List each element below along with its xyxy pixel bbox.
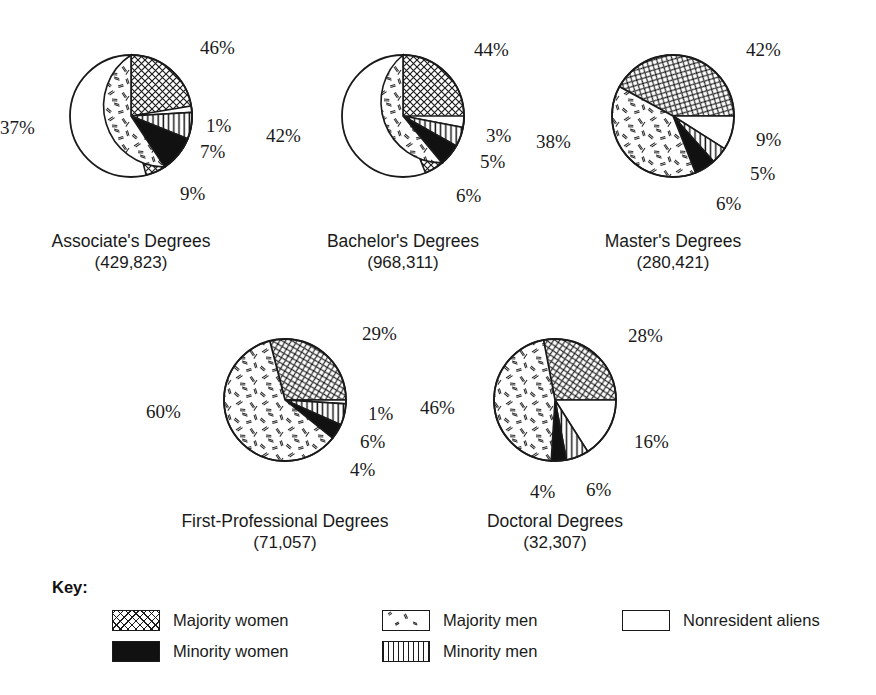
pct-minority-women: 9% bbox=[180, 184, 205, 203]
pct-minority-men: 5% bbox=[750, 164, 775, 183]
legend-item-majority-women: Majority women bbox=[112, 605, 289, 636]
legend-column-3: Nonresident aliens bbox=[622, 605, 820, 636]
pct-nonresident: 1% bbox=[368, 404, 393, 423]
white-swatch-icon bbox=[622, 610, 670, 631]
legend-label: Majority men bbox=[443, 611, 537, 630]
caption-count: (429,823) bbox=[0, 252, 276, 274]
pct-nonresident: 9% bbox=[756, 130, 781, 149]
pct-minority-women: 4% bbox=[350, 460, 375, 479]
legend-label: Minority men bbox=[443, 642, 537, 661]
pct-minority-men: 5% bbox=[480, 152, 505, 171]
legend-item-nonresident-aliens: Nonresident aliens bbox=[622, 605, 820, 636]
caption-title: Bachelor's Degrees bbox=[327, 231, 479, 251]
pie-chart-first-professional: 29% 1% 6% 4% 60% First-Professional Degr… bbox=[140, 296, 430, 506]
legend-title: Key: bbox=[52, 578, 852, 597]
caption-title: Master's Degrees bbox=[605, 231, 742, 251]
pct-majority-women: 28% bbox=[628, 326, 663, 345]
legend-item-majority-men: Majority men bbox=[382, 605, 537, 636]
caption-title: Associate's Degrees bbox=[52, 231, 211, 251]
slice-majority-men bbox=[494, 340, 555, 461]
pct-nonresident: 1% bbox=[206, 116, 231, 135]
speckled-swatch-icon bbox=[382, 610, 430, 631]
pct-minority-men: 6% bbox=[360, 432, 385, 451]
pie-graphic-doctoral: 28% 16% 6% 4% 46% bbox=[410, 296, 700, 506]
pie-graphic-bachelors: 44% 3% 5% 6% 42% bbox=[258, 12, 548, 222]
pct-minority-men: 7% bbox=[200, 142, 225, 161]
legend-columns: Majority women Minority women bbox=[52, 605, 852, 669]
pie-graphic-masters: 42% 9% 5% 6% 38% bbox=[528, 12, 818, 222]
pie-chart-bachelors: 44% 3% 5% 6% 42% Bachelor's Degrees (968… bbox=[258, 12, 548, 222]
pie-graphic-first-professional: 29% 1% 6% 4% 60% bbox=[140, 296, 430, 506]
legend-item-minority-women: Minority women bbox=[112, 636, 289, 667]
legend-label: Nonresident aliens bbox=[683, 611, 820, 630]
pct-majority-women: 44% bbox=[474, 40, 509, 59]
caption-count: (968,311) bbox=[258, 252, 548, 274]
caption-first-professional: First-Professional Degrees (71,057) bbox=[140, 510, 430, 554]
pie-chart-doctoral: 28% 16% 6% 4% 46% Doctoral Degrees (32,3… bbox=[410, 296, 700, 506]
pct-majority-men: 37% bbox=[0, 118, 35, 137]
caption-bachelors: Bachelor's Degrees (968,311) bbox=[258, 230, 548, 274]
caption-associates: Associate's Degrees (429,823) bbox=[0, 230, 276, 274]
crosshatch-swatch-icon bbox=[112, 610, 160, 631]
solid-black-swatch-icon bbox=[112, 641, 160, 662]
pct-nonresident: 16% bbox=[634, 432, 669, 451]
legend-label: Majority women bbox=[173, 611, 289, 630]
pct-minority-women: 6% bbox=[456, 186, 481, 205]
pie-graphic-associates: 46% 1% 7% 9% 37% bbox=[0, 12, 276, 222]
caption-count: (280,421) bbox=[528, 252, 818, 274]
pie-chart-masters: 42% 9% 5% 6% 38% Master's Degrees (280,4… bbox=[528, 12, 818, 222]
pct-majority-women: 46% bbox=[200, 38, 235, 57]
pct-minority-men: 6% bbox=[586, 480, 611, 499]
pct-nonresident: 3% bbox=[486, 126, 511, 145]
pct-minority-women: 6% bbox=[716, 194, 741, 213]
caption-title: Doctoral Degrees bbox=[487, 511, 623, 531]
caption-masters: Master's Degrees (280,421) bbox=[528, 230, 818, 274]
pie-chart-associates: 46% 1% 7% 9% 37% Associate's Degrees (42… bbox=[0, 12, 276, 222]
pct-majority-men: 38% bbox=[536, 132, 571, 151]
legend-label: Minority women bbox=[173, 642, 289, 661]
legend: Key: Majority women Minority women bbox=[52, 578, 852, 669]
pct-minority-women: 4% bbox=[530, 482, 555, 501]
pct-majority-women: 42% bbox=[746, 40, 781, 59]
caption-title: First-Professional Degrees bbox=[181, 511, 388, 531]
legend-column-1: Majority women Minority women bbox=[112, 605, 289, 667]
pct-majority-women: 29% bbox=[362, 324, 397, 343]
pie-chart-figure: 46% 1% 7% 9% 37% Associate's Degrees (42… bbox=[0, 0, 876, 695]
legend-item-minority-men: Minority men bbox=[382, 636, 537, 667]
caption-count: (71,057) bbox=[140, 532, 430, 554]
pct-majority-men: 60% bbox=[146, 402, 181, 421]
pct-majority-men: 46% bbox=[420, 398, 455, 417]
legend-column-2: Majority men Minority men bbox=[382, 605, 537, 667]
pct-majority-men: 42% bbox=[266, 126, 301, 145]
caption-doctoral: Doctoral Degrees (32,307) bbox=[410, 510, 700, 554]
caption-count: (32,307) bbox=[410, 532, 700, 554]
vertical-stripe-swatch-icon bbox=[382, 641, 430, 662]
